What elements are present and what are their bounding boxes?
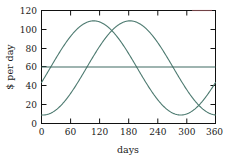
- y-tick-label: 80: [26, 44, 38, 54]
- x-axis-title: days: [117, 144, 139, 155]
- y-tick-label: 120: [20, 6, 37, 16]
- y-axis-title: $ per day: [4, 44, 15, 90]
- x-tick-label: 180: [120, 127, 137, 137]
- y-tick-label: 0: [31, 119, 37, 129]
- x-tick-label: 120: [91, 127, 108, 137]
- y-tick-label: 20: [26, 100, 38, 110]
- chart-canvas: 0 20 40 60 80 100 120 0 60 120 180 240 3…: [0, 0, 230, 162]
- chart-figure: 0 20 40 60 80 100 120 0 60 120 180 240 3…: [0, 0, 230, 162]
- x-tick-label: 300: [178, 127, 195, 137]
- x-tick-label: 360: [206, 127, 223, 137]
- y-tick-label: 40: [26, 81, 38, 91]
- x-tick-label: 240: [149, 127, 166, 137]
- x-tick-label: 0: [39, 127, 45, 137]
- y-tick-label: 60: [26, 62, 38, 72]
- x-tick-label: 60: [65, 127, 77, 137]
- y-tick-label: 100: [20, 25, 37, 35]
